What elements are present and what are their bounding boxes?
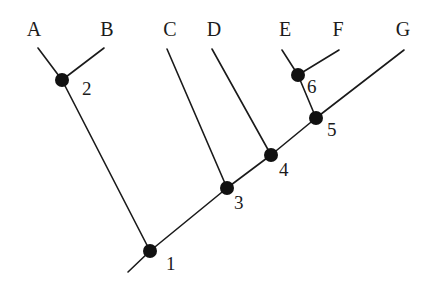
taxon-label-E: E [279,18,291,40]
node-label-1: 1 [166,253,176,274]
internal-node-1[interactable] [143,244,157,258]
internal-node-5[interactable] [309,111,323,125]
taxon-label-D: D [207,18,221,40]
internal-node-4[interactable] [264,148,278,162]
node-label-5: 5 [327,119,337,140]
taxon-label-C: C [163,18,176,40]
taxon-label-G: G [396,18,410,40]
taxon-label-A: A [27,18,42,40]
internal-node-2[interactable] [55,73,69,87]
figure-background [0,0,437,287]
node-label-6: 6 [307,76,317,97]
internal-node-6[interactable] [291,68,305,82]
node-label-3: 3 [234,192,244,213]
taxon-label-F: F [332,18,343,40]
phylogenetic-tree-figure: 123456 ABCDEFG [0,0,437,287]
tree-canvas: 123456 ABCDEFG [0,0,437,287]
node-label-4: 4 [279,159,289,180]
node-label-2: 2 [82,78,92,99]
taxon-label-B: B [100,18,113,40]
internal-node-3[interactable] [220,181,234,195]
